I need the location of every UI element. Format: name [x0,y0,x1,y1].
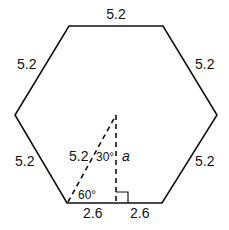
hexagon-diagram: 5.2 5.2 5.2 5.2 5.2 2.6 2.6 5.2 30° a 60… [0,0,229,230]
bottom-label-right-half: 2.6 [130,205,150,221]
side-label-upper-right: 5.2 [195,56,215,72]
angle-label-60: 60° [78,188,96,202]
side-label-lower-right: 5.2 [195,153,215,169]
right-angle-marker [116,192,128,203]
side-label-upper-left: 5.2 [17,56,37,72]
hexagon-outline [15,26,217,203]
height-label-a: a [122,148,130,164]
side-label-top: 5.2 [106,6,126,22]
bottom-label-left-half: 2.6 [83,205,103,221]
angle-label-30: 30° [96,150,114,164]
side-label-lower-left: 5.2 [15,153,35,169]
hypotenuse-label: 5.2 [69,148,89,164]
